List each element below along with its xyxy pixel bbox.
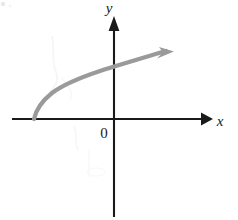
y-axis-arrowhead (109, 16, 120, 31)
figure-canvas: x y 0 (0, 0, 238, 220)
x-axis-arrowhead (201, 113, 213, 126)
plot-svg: x y 0 (0, 0, 238, 220)
x-axis-label: x (216, 113, 224, 129)
y-axis-label: y (104, 0, 113, 16)
y-axis (109, 16, 120, 217)
curve-series (34, 47, 174, 119)
origin-label: 0 (100, 125, 108, 141)
x-axis (12, 113, 213, 126)
